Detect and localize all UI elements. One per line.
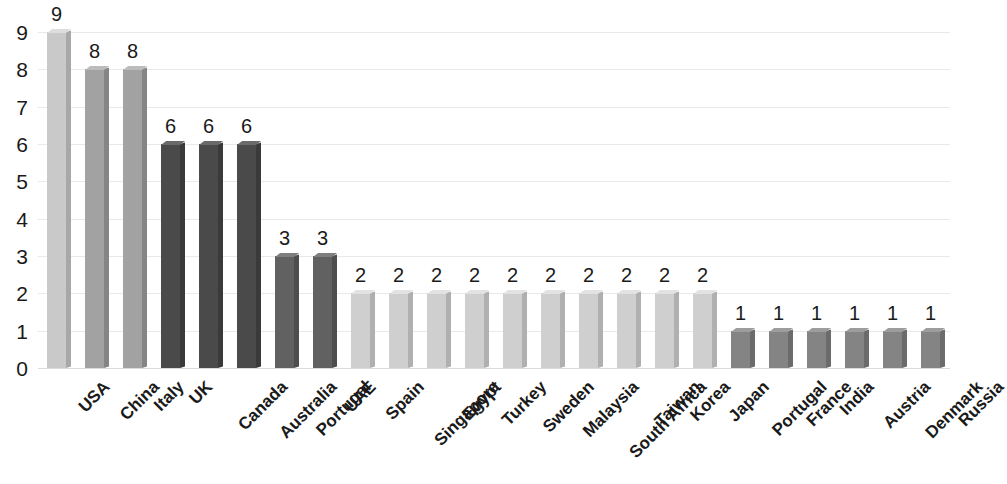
- bar-front-face: [883, 331, 902, 368]
- bar-top-face: [731, 328, 755, 332]
- bar-top-face: [807, 328, 831, 332]
- bar-front-face: [85, 69, 104, 368]
- bar[interactable]: [161, 144, 180, 368]
- y-axis-tick-label: 7: [16, 96, 28, 117]
- bar-value-label: 2: [645, 265, 685, 285]
- bar-value-label: 6: [189, 116, 229, 136]
- bar-front-face: [655, 293, 674, 368]
- bar-value-label: 2: [379, 265, 419, 285]
- bar-side-face: [902, 329, 907, 368]
- bar-value-label: 1: [835, 303, 875, 323]
- bar-value-label: 1: [759, 303, 799, 323]
- bar-front-face: [47, 32, 66, 368]
- bar-side-face: [826, 329, 831, 368]
- bar[interactable]: [389, 293, 408, 368]
- bar-value-label: 2: [531, 265, 571, 285]
- bar-side-face: [104, 68, 109, 368]
- bar-side-face: [370, 292, 375, 368]
- bar-side-face: [408, 292, 413, 368]
- bar[interactable]: [427, 293, 446, 368]
- bar[interactable]: [769, 331, 788, 368]
- bar[interactable]: [541, 293, 560, 368]
- bar-front-face: [351, 293, 370, 368]
- bar-front-face: [199, 144, 218, 368]
- bar-front-face: [769, 331, 788, 368]
- bar[interactable]: [883, 331, 902, 368]
- bar[interactable]: [123, 69, 142, 368]
- bar-side-face: [522, 292, 527, 368]
- bar-value-label: 1: [721, 303, 761, 323]
- bar[interactable]: [237, 144, 256, 368]
- bar-value-label: 6: [151, 116, 191, 136]
- bar[interactable]: [579, 293, 598, 368]
- bar-value-label: 2: [455, 265, 495, 285]
- bar-front-face: [237, 144, 256, 368]
- bar-side-face: [332, 254, 337, 368]
- y-axis: 9876543210: [0, 0, 38, 484]
- bar[interactable]: [693, 293, 712, 368]
- bar-top-face: [883, 328, 907, 332]
- bar-front-face: [389, 293, 408, 368]
- bar-front-face: [693, 293, 712, 368]
- bar-front-face: [579, 293, 598, 368]
- bar-value-label: 2: [493, 265, 533, 285]
- bar-front-face: [541, 293, 560, 368]
- bar[interactable]: [465, 293, 484, 368]
- bar-value-label: 1: [911, 303, 951, 323]
- bar[interactable]: [199, 144, 218, 368]
- bar-value-label: 2: [417, 265, 457, 285]
- bar-value-label: 3: [265, 228, 305, 248]
- bar[interactable]: [47, 32, 66, 368]
- bar-side-face: [294, 254, 299, 368]
- bar-top-face: [769, 328, 793, 332]
- bar[interactable]: [275, 256, 294, 368]
- bar-side-face: [712, 292, 717, 368]
- bar-side-face: [560, 292, 565, 368]
- y-axis-tick-label: 2: [16, 283, 28, 304]
- bar-side-face: [66, 30, 71, 368]
- bar[interactable]: [921, 331, 940, 368]
- bar[interactable]: [845, 331, 864, 368]
- y-axis-tick-label: 8: [16, 59, 28, 80]
- bar-front-face: [617, 293, 636, 368]
- bar-value-label: 1: [797, 303, 837, 323]
- bar-side-face: [864, 329, 869, 368]
- x-axis-category-label: USA: [76, 378, 113, 415]
- bar-value-label: 8: [75, 41, 115, 61]
- bar[interactable]: [85, 69, 104, 368]
- bar[interactable]: [313, 256, 332, 368]
- bar-value-label: 2: [569, 265, 609, 285]
- bar[interactable]: [503, 293, 522, 368]
- bar-side-face: [256, 142, 261, 368]
- bar[interactable]: [617, 293, 636, 368]
- x-axis-category-label: Spain: [383, 378, 428, 423]
- bar-value-label: 3: [303, 228, 343, 248]
- bar-value-label: 2: [341, 265, 381, 285]
- bar-front-face: [313, 256, 332, 368]
- bar-side-face: [636, 292, 641, 368]
- bar-side-face: [750, 329, 755, 368]
- bar-front-face: [123, 69, 142, 368]
- bar-side-face: [674, 292, 679, 368]
- y-axis-tick-label: 5: [16, 171, 28, 192]
- bar-front-face: [427, 293, 446, 368]
- bar-value-label: 1: [873, 303, 913, 323]
- x-axis-category-label: UAE: [342, 378, 379, 415]
- bar-top-face: [921, 328, 945, 332]
- bar-front-face: [465, 293, 484, 368]
- bar-side-face: [940, 329, 945, 368]
- bar-side-face: [484, 292, 489, 368]
- bar-side-face: [180, 142, 185, 368]
- y-axis-tick-label: 9: [16, 22, 28, 43]
- bar[interactable]: [655, 293, 674, 368]
- bar-front-face: [731, 331, 750, 368]
- bar-front-face: [807, 331, 826, 368]
- bar[interactable]: [731, 331, 750, 368]
- bar-top-face: [845, 328, 869, 332]
- y-axis-tick-label: 6: [16, 134, 28, 155]
- bar-value-label: 2: [607, 265, 647, 285]
- bar-front-face: [275, 256, 294, 368]
- bar[interactable]: [351, 293, 370, 368]
- x-axis-category-label: Japan: [725, 378, 772, 425]
- bar[interactable]: [807, 331, 826, 368]
